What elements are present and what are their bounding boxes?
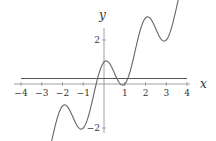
- y-tick-label: 4: [94, 0, 100, 1]
- x-tick-label: 3: [163, 88, 169, 98]
- y-tick-label: −2: [87, 123, 100, 133]
- x-tick-label: −1: [77, 88, 90, 98]
- x-tick-label: −3: [35, 88, 49, 98]
- x-tick-label: −2: [56, 88, 69, 98]
- x-tick-label: 1: [122, 88, 128, 98]
- x-tick-label: 4: [184, 88, 190, 98]
- axes: −4−3−2−11234 42−2−4 x y: [14, 0, 207, 141]
- x-tick-label: −4: [14, 88, 28, 98]
- x-axis-title: x: [200, 77, 207, 91]
- x-tick-label: 2: [143, 88, 149, 98]
- function-plot: −4−3−2−11234 42−2−4 x y: [0, 0, 216, 141]
- y-tick-label: 2: [94, 35, 100, 45]
- y-axis-title: y: [98, 8, 106, 22]
